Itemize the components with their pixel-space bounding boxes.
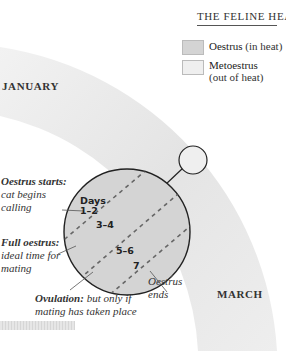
days-5-6: 5–6	[116, 246, 134, 256]
decorative-stripe	[0, 321, 75, 330]
legend-label-metoestrus: Metoestrus(out of heat)	[209, 59, 263, 83]
note-ovulation: Ovulation: but only ifmating has taken p…	[35, 292, 137, 318]
legend-label-oestrus: Oestrus (in heat)	[209, 40, 282, 52]
note-full-oestrus: Full oestrus:ideal time formating	[1, 236, 60, 275]
note-oestrus-starts: Oestrus starts:cat beginscalling	[1, 175, 67, 214]
days-label: Days1–2	[80, 196, 106, 216]
legend-swatch-metoestrus	[182, 60, 204, 75]
month-january: JANUARY	[2, 80, 59, 92]
days-3-4: 3–4	[96, 220, 114, 230]
title-underline	[197, 25, 277, 26]
days-7: 7	[133, 261, 140, 271]
legend-swatch-oestrus	[182, 40, 204, 55]
metoestrus-marker	[179, 146, 207, 174]
month-march: MARCH	[217, 288, 263, 300]
note-oestrus-ends: Oestrusends	[148, 275, 182, 301]
diagram-title: THE FELINE HEAT CYCLE	[197, 10, 286, 22]
